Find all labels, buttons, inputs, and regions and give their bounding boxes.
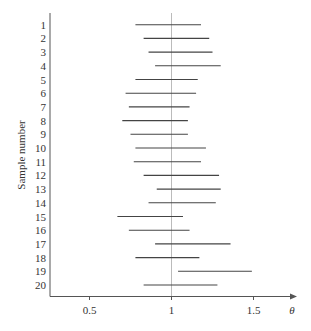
sample-label: 9 [41,128,47,140]
confidence-interval-chart: 0.511.5 1234567891011121314151617181920 … [0,0,311,331]
sample-label: 14 [35,197,47,209]
x-tick-label: 1.5 [247,304,261,316]
sample-label: 20 [35,279,47,291]
sample-label: 19 [35,265,47,277]
sample-label: 18 [35,252,47,264]
sample-label: 15 [35,211,47,223]
sample-label: 10 [35,142,47,154]
sample-label: 1 [41,19,47,31]
sample-label: 5 [41,74,47,86]
x-axis-arrow-icon [290,294,297,300]
sample-label: 12 [35,169,46,181]
axes [50,13,297,300]
sample-label: 3 [41,46,47,58]
sample-label: 7 [41,101,47,113]
sample-label: 4 [41,60,47,72]
sample-label: 17 [35,238,47,250]
x-axis-title: θ [289,304,295,316]
sample-label: 13 [35,183,47,195]
sample-label: 11 [35,156,46,168]
interval-layer [117,25,251,285]
y-axis-title: Sample number [15,120,27,190]
x-tick-label: 0.5 [83,304,97,316]
sample-label: 2 [41,32,47,44]
y-tick-labels: 1234567891011121314151617181920 [35,19,47,291]
sample-label: 16 [35,224,47,236]
x-ticks: 0.511.5 [83,297,261,317]
sample-label: 8 [41,115,47,127]
x-tick-label: 1 [169,304,175,316]
sample-label: 6 [41,87,47,99]
